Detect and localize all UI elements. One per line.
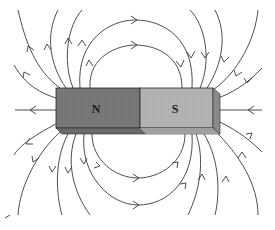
arrow-up-icon: [222, 176, 229, 182]
arrow-down-icon: [234, 70, 242, 76]
arrow-down-icon: [32, 156, 39, 162]
arrow-down-icon: [201, 52, 209, 58]
arrow-down-icon: [221, 56, 229, 62]
arrow-up-icon: [198, 174, 205, 180]
arrow-down-icon: [65, 167, 72, 173]
arrow-up-icon: [238, 152, 246, 158]
magnet-field-diagram: N S: [0, 0, 275, 230]
arrow-up-icon: [246, 133, 252, 139]
arrow-down-icon: [94, 162, 100, 168]
field-lines-bottom: [5, 122, 262, 218]
bar-magnet: N S: [56, 88, 220, 134]
south-label: S: [172, 102, 179, 116]
magnet-side-face: [213, 88, 220, 134]
arrow-up-icon: [86, 60, 93, 66]
arrow-down-icon: [26, 138, 33, 144]
arrow-up-icon: [172, 162, 178, 168]
arrow-up-icon: [180, 183, 186, 189]
arrow-up-icon: [44, 44, 51, 50]
arrow-up-icon: [78, 40, 86, 46]
magnet-bottom-face-south: [140, 128, 220, 134]
arrow-down-icon: [49, 166, 56, 172]
north-label: N: [92, 102, 101, 116]
arrow-left-icon: [23, 72, 30, 78]
